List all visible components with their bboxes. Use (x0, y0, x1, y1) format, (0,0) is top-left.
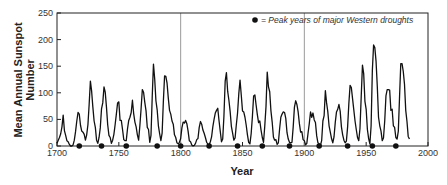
drought-marker (178, 143, 184, 149)
y-axis-title-line2: Number (24, 59, 36, 101)
sunspot-series-line (57, 45, 409, 146)
x-tick-label: 1750 (109, 148, 129, 158)
x-tick-label: 1700 (47, 148, 67, 158)
x-tick-label: 2000 (418, 148, 438, 158)
drought-marker (206, 143, 212, 149)
drought-marker (154, 143, 160, 149)
x-tick-label: 1800 (171, 148, 191, 158)
y-tick-label: 250 (38, 8, 53, 18)
drought-marker (370, 143, 376, 149)
drought-marker (76, 143, 82, 149)
drought-markers (76, 143, 398, 149)
y-tick-label: 50 (43, 114, 53, 124)
y-axis-ticks: 050100150200250 (38, 8, 61, 151)
x-axis-ticks: 1700175018001850190019502000 (47, 142, 438, 158)
drought-marker (123, 143, 129, 149)
drought-marker (393, 143, 399, 149)
x-tick-label: 1950 (356, 148, 376, 158)
x-axis-title: Year (230, 165, 254, 177)
legend-label: = Peak years of major Western droughts (261, 15, 414, 25)
drought-marker (316, 143, 322, 149)
drought-marker (345, 143, 351, 149)
drought-marker (235, 143, 241, 149)
x-tick-label: 1900 (294, 148, 314, 158)
legend-marker-icon (252, 17, 258, 23)
drought-marker (99, 143, 105, 149)
y-tick-label: 100 (38, 88, 53, 98)
y-axis-title-line1: Mean Annual Sunspot (12, 22, 24, 137)
x-tick-label: 1850 (232, 148, 252, 158)
y-tick-label: 200 (38, 35, 53, 45)
drought-marker (287, 143, 293, 149)
y-tick-label: 150 (38, 61, 53, 71)
drought-marker (259, 143, 265, 149)
legend: = Peak years of major Western droughts (252, 15, 414, 25)
y-axis-title: Mean Annual Sunspot Number (12, 22, 36, 137)
sunspot-chart: Mean Annual Sunspot Number 0501001502002… (0, 0, 447, 185)
